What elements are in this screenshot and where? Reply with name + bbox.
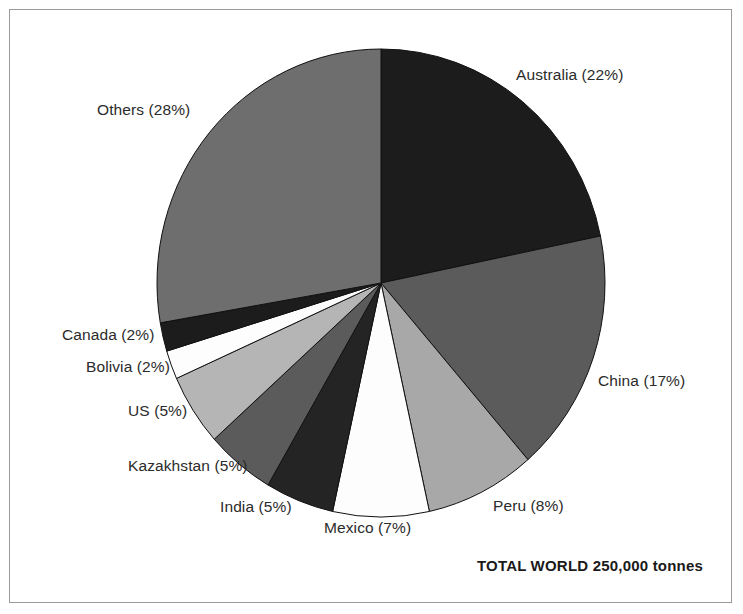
pie-label-mexico: Mexico (7%): [324, 519, 411, 537]
pie-chart-canvas: Australia (22%)China (17%)Peru (8%)Mexic…: [0, 0, 743, 614]
pie-label-india: India (5%): [220, 498, 292, 516]
pie-label-us: US (5%): [128, 402, 187, 420]
total-world-note: TOTAL WORLD 250,000 tonnes: [477, 557, 703, 574]
pie-label-china: China (17%): [598, 372, 685, 390]
pie-label-bolivia: Bolivia (2%): [86, 358, 170, 376]
pie-label-canada: Canada (2%): [62, 326, 154, 344]
pie-label-peru: Peru (8%): [493, 497, 564, 515]
pie-slice-others: [157, 49, 381, 323]
pie-label-kazakhstan: Kazakhstan (5%): [128, 457, 248, 475]
pie-slice-group: [157, 49, 605, 517]
pie-chart-figure: Australia (22%)China (17%)Peru (8%)Mexic…: [0, 0, 743, 614]
pie-label-australia: Australia (22%): [516, 66, 623, 84]
pie-label-others: Others (28%): [97, 101, 190, 119]
